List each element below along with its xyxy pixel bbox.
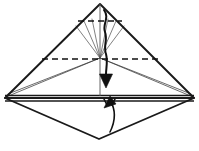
figure-background (0, 0, 199, 151)
origami-figure (0, 0, 199, 151)
origami-diagram (0, 0, 199, 151)
